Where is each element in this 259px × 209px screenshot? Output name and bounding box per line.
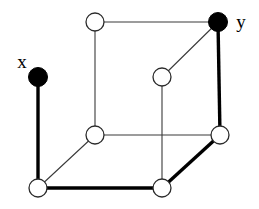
vertex-label-y: y [236, 11, 246, 32]
graph-edge-highlighted [218, 22, 220, 135]
graph-canvas: yx [0, 0, 259, 209]
thin-edges-group [38, 22, 220, 188]
graph-node-open [153, 179, 171, 197]
graph-node-open [86, 13, 104, 31]
vertex-label-x: x [17, 51, 27, 72]
graph-node-open [211, 126, 229, 144]
graph-node-open [153, 68, 171, 86]
graph-edge-highlighted [162, 135, 220, 188]
graph-edge [38, 135, 95, 188]
graph-node-filled [29, 68, 48, 87]
cube-graph-figure: yx [0, 0, 259, 209]
graph-edge [162, 22, 218, 77]
graph-node-open [86, 126, 104, 144]
graph-node-open [29, 179, 47, 197]
graph-node-filled [209, 13, 228, 32]
